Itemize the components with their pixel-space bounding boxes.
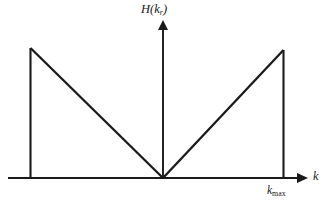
y-axis-label-subscript: r xyxy=(160,8,163,17)
figure-container: H(kr) k kmax xyxy=(0,0,333,213)
kmax-tick-label: kmax xyxy=(267,185,286,197)
y-axis-arrowhead xyxy=(158,20,168,30)
y-axis-label: H(kr) xyxy=(141,3,167,16)
y-axis-label-close: ) xyxy=(163,2,167,16)
x-axis-arrowhead xyxy=(297,173,308,183)
kmax-label-subscript: max xyxy=(272,189,285,198)
y-axis-label-text: H(k xyxy=(141,2,160,16)
ramp-left-branch xyxy=(31,48,164,178)
ramp-right-branch xyxy=(163,50,284,178)
ramp-filter-plot xyxy=(0,0,333,213)
x-axis-label: k xyxy=(313,170,318,182)
